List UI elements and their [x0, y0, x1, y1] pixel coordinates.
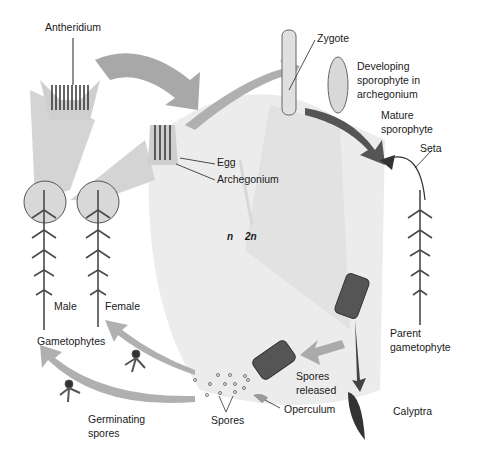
label-female: Female [105, 300, 140, 313]
label-mature-1: Mature [381, 109, 414, 122]
label-spores-released-2: released [296, 384, 336, 397]
label-calyptra: Calyptra [393, 405, 432, 418]
label-male: Male [54, 300, 77, 313]
male-circle [24, 181, 66, 223]
label-zygote: Zygote [317, 32, 349, 45]
label-parent-1: Parent [390, 327, 421, 340]
label-developing-3: archegonium [357, 88, 418, 101]
label-archegonium: Archegonium [217, 173, 279, 186]
label-haploid: n [227, 230, 233, 243]
calyptra-structure [348, 392, 365, 440]
male-germinate-arrow [40, 345, 195, 403]
label-antheridium: Antheridium [45, 21, 101, 34]
developing-sporophyte [328, 57, 348, 113]
life-cycle-artwork [0, 0, 483, 463]
label-diploid: 2n [245, 230, 257, 243]
label-developing-1: Developing [357, 60, 410, 73]
label-developing-2: sporophyte in [357, 74, 420, 87]
label-egg: Egg [217, 156, 236, 169]
label-spores: Spores [211, 414, 244, 427]
label-seta: Seta [420, 142, 442, 155]
label-gametophytes: Gametophytes [37, 335, 105, 348]
label-operculum: Operculum [284, 403, 335, 416]
label-germinating-1: Germinating [88, 413, 145, 426]
label-parent-2: gametophyte [390, 341, 451, 354]
label-spores-released-1: Spores [296, 370, 329, 383]
zygote-structure [282, 30, 296, 115]
sperm-arrow [95, 53, 200, 110]
label-mature-2: sporophyte [381, 123, 433, 136]
antheridium-structure [40, 38, 100, 120]
label-germinating-2: spores [88, 427, 120, 440]
